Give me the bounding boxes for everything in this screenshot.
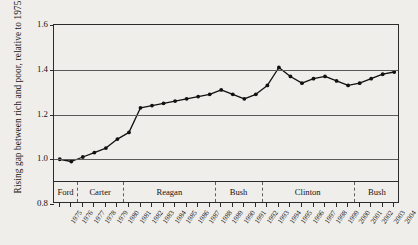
x-tick-label: 2000: [357, 209, 372, 225]
x-tick-mark: [347, 203, 348, 207]
x-tick-mark: [209, 203, 210, 207]
data-point: [335, 79, 339, 83]
x-tick-label: 1981: [138, 209, 153, 225]
y-tick-mark: [50, 115, 54, 116]
x-tick-mark: [313, 203, 314, 207]
data-point: [116, 137, 120, 141]
data-point: [242, 97, 246, 101]
y-tick-label: 1.0: [8, 153, 48, 163]
president-divider: [123, 182, 124, 202]
x-tick-mark: [105, 203, 106, 207]
data-point: [381, 72, 385, 76]
data-point: [127, 131, 131, 135]
data-point: [196, 95, 200, 99]
data-point: [254, 92, 258, 96]
y-tick-mark: [50, 25, 54, 26]
president-label-reagan-2: Reagan: [123, 182, 215, 202]
x-tick-mark: [289, 203, 290, 207]
gridline: [54, 159, 398, 160]
y-axis-title: Rising gap between rich and poor, relati…: [13, 0, 23, 207]
data-point: [312, 77, 316, 81]
president-label-bush-3: Bush: [215, 182, 261, 202]
x-tick-mark: [393, 203, 394, 207]
x-tick-mark: [301, 203, 302, 207]
president-divider: [262, 182, 263, 202]
president-divider: [354, 182, 355, 202]
president-divider: [77, 182, 78, 202]
data-point: [139, 106, 143, 110]
x-tick-label: 1983: [161, 209, 176, 225]
data-point: [346, 84, 350, 88]
x-tick-mark: [220, 203, 221, 207]
data-point: [358, 81, 362, 85]
x-tick-mark: [382, 203, 383, 207]
x-tick-mark: [266, 203, 267, 207]
y-tick-label: 1.4: [8, 64, 48, 74]
x-tick-mark: [359, 203, 360, 207]
x-tick-mark: [232, 203, 233, 207]
x-tick-mark: [93, 203, 94, 207]
data-point: [323, 75, 327, 79]
data-point: [92, 151, 96, 155]
x-tick-mark: [163, 203, 164, 207]
x-tick-mark: [140, 203, 141, 207]
x-tick-mark: [324, 203, 325, 207]
x-tick-label: 1998: [334, 209, 349, 225]
data-point: [162, 101, 166, 105]
x-tick-mark: [336, 203, 337, 207]
y-tick-mark: [50, 159, 54, 160]
gridline: [54, 115, 398, 116]
x-tick-mark: [151, 203, 152, 207]
president-label-carter-1: Carter: [77, 182, 123, 202]
x-tick-mark: [186, 203, 187, 207]
data-point: [104, 146, 108, 150]
data-point: [300, 81, 304, 85]
president-label-clinton-4: Clinton: [262, 182, 354, 202]
data-point: [289, 75, 293, 79]
x-tick-label: 1985: [184, 209, 199, 225]
x-tick-mark: [197, 203, 198, 207]
x-tick-mark: [370, 203, 371, 207]
x-tick-mark: [278, 203, 279, 207]
data-point: [219, 88, 223, 92]
x-tick-mark: [116, 203, 117, 207]
data-point: [231, 92, 235, 96]
x-tick-label: 1996: [311, 209, 326, 225]
x-tick-label: 1989: [230, 209, 245, 225]
x-tick-mark: [70, 203, 71, 207]
x-tick-label: 2002: [380, 209, 395, 225]
y-tick-label: 0.8: [8, 198, 48, 208]
data-point: [265, 84, 269, 88]
president-label-bush-5: Bush: [354, 182, 400, 202]
y-tick-label: 1.2: [8, 109, 48, 119]
president-divider: [215, 182, 216, 202]
x-tick-mark: [128, 203, 129, 207]
data-point: [185, 97, 189, 101]
y-tick-mark: [50, 70, 54, 71]
x-tick-label: 2004: [403, 209, 418, 225]
x-tick-mark: [243, 203, 244, 207]
x-tick-mark: [174, 203, 175, 207]
data-point: [150, 104, 154, 108]
president-label-ford-0: Ford: [54, 182, 77, 202]
x-tick-mark: [59, 203, 60, 207]
data-point: [208, 92, 212, 96]
y-tick-label: 1.6: [8, 19, 48, 29]
x-tick-mark: [82, 203, 83, 207]
gridline: [54, 70, 398, 71]
data-point: [173, 99, 177, 103]
president-band: FordCarterReaganBushClintonBush: [54, 181, 398, 202]
x-axis: 1975197619771978197919801981198219831984…: [53, 203, 399, 245]
plot-area: FordCarterReaganBushClintonBush: [53, 24, 399, 203]
x-tick-mark: [255, 203, 256, 207]
x-tick-label: 1987: [207, 209, 222, 225]
data-point: [369, 77, 373, 81]
